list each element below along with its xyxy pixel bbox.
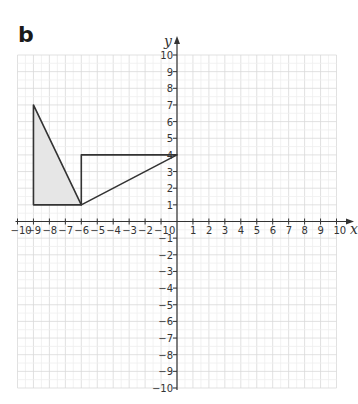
x-tick-label: −3 — [122, 225, 137, 236]
y-tick-label: 4 — [167, 150, 173, 161]
x-tick-label: −5 — [90, 225, 105, 236]
y-tick-label: 10 — [160, 50, 173, 61]
y-tick-label: 5 — [167, 133, 173, 144]
x-tick-label: 8 — [302, 225, 308, 236]
x-axis-label: x — [350, 221, 358, 237]
x-tick-label: 9 — [318, 225, 324, 236]
y-tick-label: −4 — [158, 283, 173, 294]
y-tick-label: 2 — [167, 183, 173, 194]
y-tick-label: −1 — [158, 233, 173, 244]
y-tick-label: 9 — [167, 67, 173, 78]
coordinate-plane: −10−9−8−7−6−5−4−3−2−1012345678910−10−9−8… — [0, 0, 358, 404]
y-tick-label: −7 — [158, 333, 173, 344]
y-tick-label: 8 — [167, 83, 173, 94]
x-tick-label: 7 — [286, 225, 292, 236]
y-tick-label: 6 — [167, 117, 173, 128]
y-tick-label: 7 — [167, 100, 173, 111]
y-tick-label: −8 — [158, 350, 173, 361]
x-tick-label: 10 — [334, 225, 347, 236]
x-tick-label: 1 — [190, 225, 196, 236]
y-tick-label: 3 — [167, 167, 173, 178]
x-tick-label: −2 — [138, 225, 153, 236]
x-tick-label: 2 — [206, 225, 212, 236]
x-tick-label: 3 — [222, 225, 228, 236]
y-tick-label: −3 — [158, 266, 173, 277]
y-tick-label: −2 — [158, 250, 173, 261]
x-tick-label: 5 — [254, 225, 260, 236]
x-tick-label: 4 — [238, 225, 244, 236]
x-tick-label: −6 — [74, 225, 89, 236]
y-tick-label: −10 — [152, 383, 173, 394]
x-tick-label: 6 — [270, 225, 276, 236]
y-tick-label: −6 — [158, 316, 173, 327]
y-tick-label: −5 — [158, 300, 173, 311]
y-tick-label: −9 — [158, 366, 173, 377]
y-axis-arrow-icon — [174, 36, 180, 44]
x-tick-label: −4 — [106, 225, 121, 236]
y-tick-label: 1 — [167, 200, 173, 211]
y-axis-label: y — [163, 33, 173, 49]
x-tick-label: −9 — [26, 225, 41, 236]
x-tick-label: −8 — [42, 225, 57, 236]
x-tick-label: −7 — [58, 225, 73, 236]
